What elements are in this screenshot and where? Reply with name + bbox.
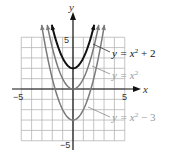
x-axis-arrow-icon: [133, 86, 141, 92]
tick-y-neg5: −5: [60, 140, 70, 150]
parabola-chart: x y −5 5 5 −5 y = x2 + 2 y = x2 y = x2 −…: [0, 0, 173, 160]
leader-line-eq3: [88, 107, 110, 117]
x-axis-label: x: [142, 83, 148, 95]
tick-y-pos5: 5: [64, 35, 69, 45]
tick-x-neg5: −5: [13, 92, 23, 102]
y-axis-arrow-icon: [70, 12, 76, 20]
equation-label-x2-minus-3: y = x2 − 3: [111, 111, 156, 123]
y-axis-label: y: [68, 1, 74, 13]
tick-x-pos5: 5: [122, 92, 127, 102]
equation-label-x2-plus-2: y = x2 + 2: [111, 47, 155, 59]
equation-label-x2: y = x2: [111, 69, 139, 81]
